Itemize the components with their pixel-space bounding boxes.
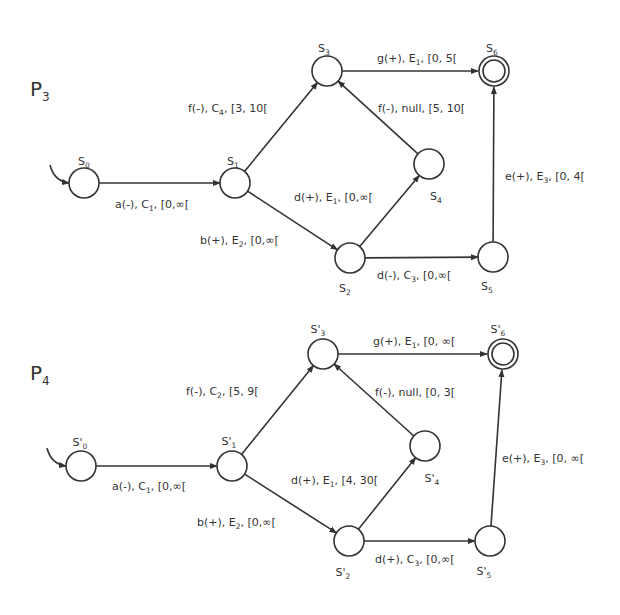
state-node — [66, 451, 96, 481]
state-node — [217, 451, 247, 481]
transition-label: d(+), C3, [0,∞[ — [375, 553, 454, 568]
transition-arrow — [358, 458, 415, 530]
state-label: S4 — [430, 190, 442, 205]
transition-label: g(+), E1, [0, 5[ — [377, 52, 457, 67]
state-node — [69, 168, 99, 198]
state-node — [475, 526, 505, 556]
transition-arrow — [242, 366, 314, 455]
transition-label: b(+), E2, [0,∞[ — [200, 234, 279, 249]
transition-arrow — [491, 370, 502, 526]
transition-label: f(-), null, [0, 3[ — [375, 386, 455, 399]
state-label: S'6 — [491, 323, 506, 338]
final-state-inner-ring — [483, 60, 505, 82]
transition-arrow — [493, 87, 494, 242]
transition-arrow — [365, 257, 478, 258]
automaton-title: P3 — [30, 77, 50, 104]
automaton-p4: P4 a(-), C1, [0,∞[f(-), C2, [5, 9[b(+), … — [30, 323, 584, 581]
state-label: S3 — [318, 42, 330, 57]
state-label: S6 — [486, 42, 498, 57]
state-label: S5 — [481, 280, 493, 295]
state-label: S'2 — [336, 566, 351, 581]
transition-label: d(+), E1, [0,∞[ — [294, 191, 373, 206]
transition-label: d(+), E1, [4, 30[ — [291, 474, 378, 489]
transition-label: f(-), C2, [5, 9[ — [186, 385, 258, 400]
state-label: S'5 — [477, 565, 492, 580]
transition-label: g(+), E1, [0, ∞[ — [373, 335, 455, 350]
transition-arrow — [334, 364, 414, 436]
state-label: S'0 — [73, 436, 88, 451]
state-label: S1 — [227, 155, 239, 170]
transition-label: f(-), C4, [3, 10[ — [188, 102, 267, 117]
initial-state-arrow — [50, 165, 69, 183]
transition-label: e(+), E3, [0, ∞[ — [502, 452, 584, 467]
transition-label: d(-), C3, [0,∞[ — [377, 269, 451, 284]
state-label: S'1 — [222, 435, 237, 450]
automaton-title: P4 — [30, 361, 50, 388]
state-node — [410, 431, 440, 461]
transition-label: f(-), null, [5, 10[ — [378, 102, 465, 115]
state-node — [220, 168, 250, 198]
automaton-p3: P3 a(-), C1, [0,∞[f(-), C4, [3, 10[b(+),… — [30, 42, 585, 297]
state-node — [308, 339, 338, 369]
state-node — [478, 242, 508, 272]
transition-arrow — [338, 81, 418, 154]
transition-label: e(+), E3, [0, 4[ — [505, 170, 585, 185]
state-node — [335, 243, 365, 273]
state-node — [312, 56, 342, 86]
transition-label: a(-), C1, [0,∞[ — [115, 198, 189, 213]
transition-label: a(-), C1, [0,∞[ — [112, 480, 186, 495]
state-label: S0 — [78, 155, 90, 170]
state-node — [334, 526, 364, 556]
automata-diagram: P3 a(-), C1, [0,∞[f(-), C4, [3, 10[b(+),… — [0, 0, 620, 615]
transition-arrow — [245, 83, 318, 172]
state-label: S'3 — [311, 323, 326, 338]
state-node — [414, 149, 444, 179]
final-state-inner-ring — [492, 343, 514, 365]
state-label: S'4 — [425, 472, 440, 487]
transition-arrow — [360, 176, 420, 247]
transition-label: b(+), E2, [0,∞[ — [197, 516, 276, 531]
initial-state-arrow — [47, 448, 66, 466]
state-label: S2 — [339, 282, 351, 297]
